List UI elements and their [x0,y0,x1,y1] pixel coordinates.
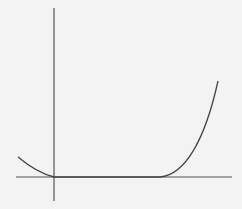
graph-canvas [0,0,242,209]
function-graph [0,0,242,209]
curve-right-increasing [160,81,218,177]
curve-left-decreasing [18,157,54,177]
